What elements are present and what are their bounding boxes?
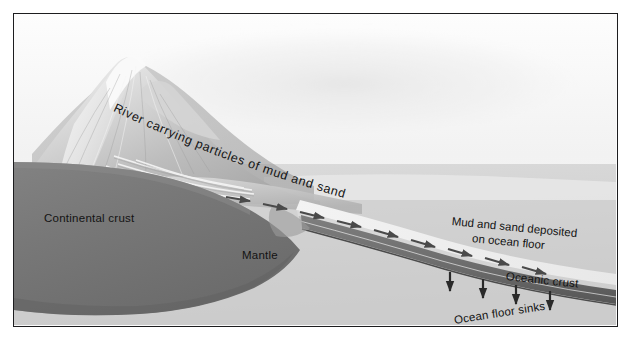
diagram-frame: River carrying particles of mud and sand… [13, 13, 618, 327]
geological-cross-section-scene: River carrying particles of mud and sand [14, 14, 616, 325]
grain-overlay [14, 14, 616, 325]
figure-root: River carrying particles of mud and sand… [0, 0, 632, 343]
